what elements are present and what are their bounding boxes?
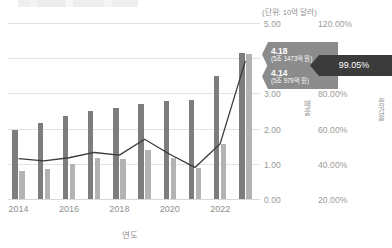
x-axis-tick: 2018 — [109, 204, 129, 214]
y-axis-left-tick: 2.00 — [264, 125, 281, 135]
sales-callout-2-sub: (5조 979억 원) — [271, 78, 309, 85]
plot-area — [8, 24, 260, 200]
y-axis-left-tick: 1.00 — [264, 160, 281, 170]
y-axis-left-tick: 0.00 — [264, 195, 281, 205]
y-axis-right-tick: 20.00% — [318, 195, 347, 205]
y-axis-left-tick: 5.00 — [264, 19, 281, 29]
growth-rate-polyline — [19, 61, 246, 168]
x-axis-baseline — [8, 199, 260, 200]
growth-rate-line — [8, 24, 260, 200]
sales-callout-1-sub: (5조 1473억 원) — [271, 56, 312, 63]
y-axis-right-tick: 120.00% — [318, 19, 352, 29]
x-axis-tick: 2016 — [59, 204, 79, 214]
x-axis-title: 연도 — [0, 228, 260, 240]
rate-callout-value: 99.05% — [339, 61, 370, 70]
y-axis-right-tick: 80.00% — [318, 89, 347, 99]
y-axis-left-tick: 3.00 — [264, 89, 281, 99]
x-axis-ticks: 20142016201820202022 — [8, 204, 260, 218]
x-axis-tick: 2022 — [210, 204, 230, 214]
cropped-title-strip — [18, 0, 138, 7]
x-axis-tick: 2014 — [9, 204, 29, 214]
y-axis-left-title: 매출 — [300, 100, 311, 115]
x-axis-tick: 2020 — [160, 204, 180, 214]
y-axis-right-tick: 60.00% — [318, 125, 347, 135]
y-axis-right-title: 증가율 — [374, 98, 385, 121]
y-axis-right-tick: 40.00% — [318, 160, 347, 170]
rate-callout: 99.05% — [310, 55, 392, 76]
unit-note: (단위: 10억 달러) — [262, 6, 317, 17]
